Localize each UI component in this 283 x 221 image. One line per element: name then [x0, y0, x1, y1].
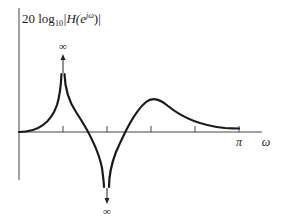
pi-tick-label: π [236, 135, 243, 149]
curve-segment-pole-to-zero [65, 74, 105, 187]
magnitude-curve [19, 74, 239, 187]
chart-canvas: 20 log10|H(ejω)| ∞ ∞ π ω [0, 0, 283, 221]
infinity-bottom-label: ∞ [103, 205, 111, 217]
curve-segment-zero-to-pi [109, 99, 239, 187]
infinity-up-arrow: ∞ [59, 40, 67, 73]
infinity-down-arrow: ∞ [103, 188, 111, 217]
curve-segment-pole-left [19, 74, 62, 132]
infinity-top-label: ∞ [59, 40, 67, 52]
x-axis-label: ω [262, 135, 270, 149]
arrow-up-head-icon [61, 54, 66, 60]
arrow-down-head-icon [105, 198, 110, 204]
y-axis-label: 20 log10|H(ejω)| [22, 11, 101, 28]
magnitude-response-figure: 20 log10|H(ejω)| ∞ ∞ π ω [0, 0, 283, 221]
